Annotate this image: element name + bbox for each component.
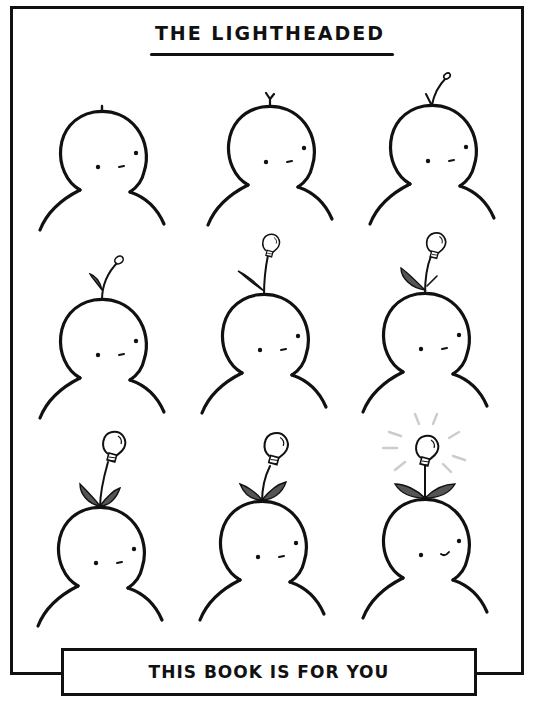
panel-5 — [202, 234, 326, 413]
panel-7 — [38, 432, 162, 626]
panel-2 — [208, 93, 332, 225]
caption-box: THIS BOOK IS FOR YOU — [61, 648, 477, 696]
panel-9 — [363, 414, 487, 618]
panel-6 — [363, 233, 487, 412]
comic-art — [0, 0, 540, 711]
panel-8 — [200, 433, 324, 620]
caption-text: THIS BOOK IS FOR YOU — [149, 662, 390, 682]
panel-4 — [40, 255, 164, 418]
panel-1 — [40, 106, 164, 230]
panel-3 — [370, 72, 494, 224]
